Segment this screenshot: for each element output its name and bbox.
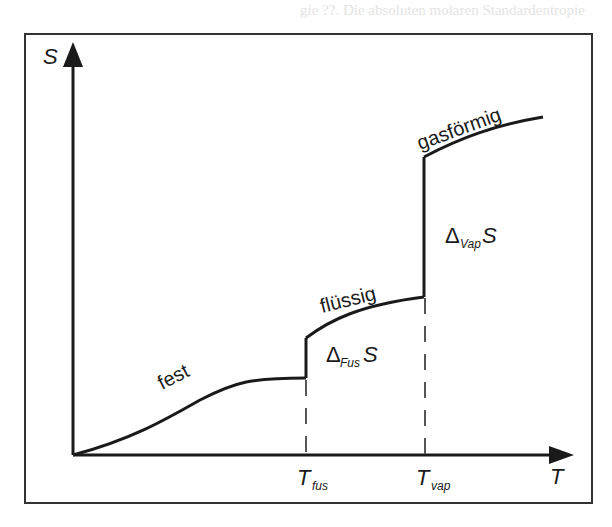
phase-label-gas: gasförmig bbox=[414, 103, 504, 154]
t-fus-symbol: T bbox=[297, 465, 312, 490]
vaporization-delta-symbol: Δ bbox=[445, 223, 460, 248]
y-axis-label: S bbox=[43, 44, 58, 69]
fusion-delta-symbol-s: S bbox=[363, 342, 378, 367]
t-vap-subscript: vap bbox=[431, 479, 451, 493]
figure-frame bbox=[25, 34, 592, 503]
entropy-temperature-diagram: S T fest flüssig gasförmig Δ Fus S Δ Vap… bbox=[0, 0, 612, 527]
fusion-entropy-label: Δ Fus S bbox=[326, 342, 378, 370]
fusion-delta-subscript: Fus bbox=[340, 356, 360, 370]
vaporization-temperature-label: T vap bbox=[416, 465, 451, 493]
solid-phase-curve bbox=[73, 378, 306, 455]
x-axis bbox=[73, 446, 574, 464]
vaporization-delta-symbol-s: S bbox=[482, 223, 497, 248]
x-axis-arrow-icon bbox=[549, 446, 574, 464]
fusion-delta-symbol: Δ bbox=[326, 342, 341, 367]
phase-label-solid: fest bbox=[154, 359, 193, 393]
phase-label-liquid: flüssig bbox=[318, 282, 378, 317]
y-axis bbox=[63, 42, 83, 455]
t-vap-symbol: T bbox=[416, 465, 431, 490]
vaporization-delta-subscript: Vap bbox=[460, 237, 481, 251]
y-axis-arrow-icon bbox=[63, 42, 83, 67]
vaporization-entropy-label: Δ Vap S bbox=[445, 223, 497, 251]
x-axis-label: T bbox=[550, 464, 565, 489]
fusion-temperature-label: T fus bbox=[297, 465, 328, 493]
t-fus-subscript: fus bbox=[312, 479, 328, 493]
